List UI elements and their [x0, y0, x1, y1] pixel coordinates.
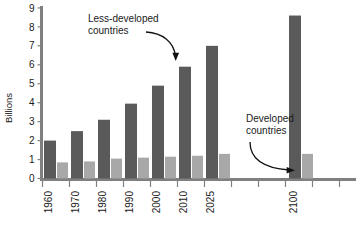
y-axis-label: Billions — [3, 93, 14, 123]
annotation-less-developed-arrowhead — [172, 53, 179, 61]
bar-developed-2000 — [165, 157, 176, 179]
y-tick-label: 5 — [29, 78, 35, 89]
annotation-less-developed-line2: countries — [88, 25, 129, 36]
x-tick-label-2100: 2100 — [288, 191, 299, 214]
annotation-developed-line1: Developed — [246, 113, 294, 124]
bar-developed-1980 — [111, 159, 122, 179]
annotation-developed-line2: countries — [246, 125, 287, 136]
annotation-developed-arrow-curve — [250, 142, 289, 170]
bar-developed-1960 — [57, 162, 68, 178]
bar-developed-1990 — [138, 158, 149, 179]
annotation-less-developed-arrow-curve — [146, 32, 176, 55]
y-tick-label: 0 — [29, 173, 35, 184]
x-tick-label-1960: 1960 — [43, 191, 54, 214]
y-tick-label: 1 — [29, 154, 35, 165]
y-tick-label: 9 — [29, 3, 35, 14]
y-tick-label: 2 — [29, 135, 35, 146]
y-tick-label: 4 — [29, 97, 35, 108]
bar-less-developed-1970 — [71, 131, 83, 178]
x-tick-label-1970: 1970 — [70, 191, 81, 214]
bar-developed-2025 — [219, 154, 230, 179]
y-tick-label: 3 — [29, 116, 35, 127]
bars-layer — [44, 16, 313, 179]
bar-developed-2010 — [192, 156, 203, 179]
bar-developed-2100 — [302, 154, 313, 179]
bar-less-developed-2025 — [206, 46, 218, 179]
y-axis-ticks: 0123456789 — [29, 3, 42, 185]
y-axis-label-text: Billions — [3, 93, 14, 123]
bar-less-developed-1960 — [44, 141, 56, 179]
bar-less-developed-1990 — [125, 104, 137, 179]
x-tick-label-2010: 2010 — [178, 191, 189, 214]
x-tick-label-1980: 1980 — [97, 191, 108, 214]
bar-less-developed-1980 — [98, 120, 110, 179]
annotation-less-developed: Less-developed countries — [88, 13, 179, 61]
annotation-less-developed-line1: Less-developed — [88, 13, 159, 24]
x-axis-ticks — [43, 181, 340, 187]
y-tick-label: 8 — [29, 22, 35, 33]
bar-less-developed-2100 — [289, 16, 301, 179]
x-tick-label-1990: 1990 — [124, 191, 135, 214]
x-tick-label-2025: 2025 — [205, 191, 216, 214]
y-tick-label: 6 — [29, 59, 35, 70]
x-axis-tick-labels: 19601970198019902000201020252100 — [43, 191, 299, 214]
x-tick-label-2000: 2000 — [151, 191, 162, 214]
bar-less-developed-2010 — [179, 67, 191, 179]
bar-developed-1970 — [84, 161, 95, 178]
chart-svg: Billions 0123456789 19601970198019902000… — [0, 0, 364, 232]
annotation-developed: Developed countries — [246, 113, 295, 174]
bar-less-developed-2000 — [152, 86, 164, 179]
population-projection-chart: Billions 0123456789 19601970198019902000… — [0, 0, 364, 232]
y-tick-label: 7 — [29, 40, 35, 51]
